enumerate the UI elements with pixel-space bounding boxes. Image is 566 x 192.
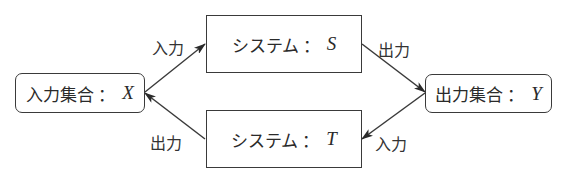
system-s-separator: ： — [303, 32, 320, 57]
system-t-node: システム ： T — [206, 110, 362, 168]
system-s-node: システム ： S — [206, 15, 362, 73]
system-s-label: システム — [232, 32, 299, 57]
system-t-separator: ： — [302, 127, 319, 152]
output-set-var: Y — [531, 83, 542, 105]
output-set-separator: ： — [507, 81, 524, 106]
output-set-node: 出力集合 ： Y — [425, 74, 552, 113]
input-set-node: 入力集合 ： X — [15, 73, 145, 113]
edge-label-output-bottom: 出力 — [150, 130, 182, 154]
output-set-label: 出力集合 — [435, 81, 503, 106]
system-diagram: 入力集合 ： X システム ： S システム ： T 出力集合 ： Y 入力 出… — [0, 0, 566, 192]
edge-label-input-bottom: 入力 — [375, 131, 407, 155]
system-t-var: T — [326, 128, 337, 150]
system-s-var: S — [327, 33, 337, 55]
input-set-label: 入力集合 — [26, 81, 94, 106]
input-set-separator: ： — [98, 81, 115, 106]
system-t-label: システム — [231, 127, 298, 152]
edge-label-output-top: 出力 — [378, 37, 410, 61]
input-set-var: X — [122, 82, 134, 104]
edge-label-input-top: 入力 — [152, 35, 184, 59]
